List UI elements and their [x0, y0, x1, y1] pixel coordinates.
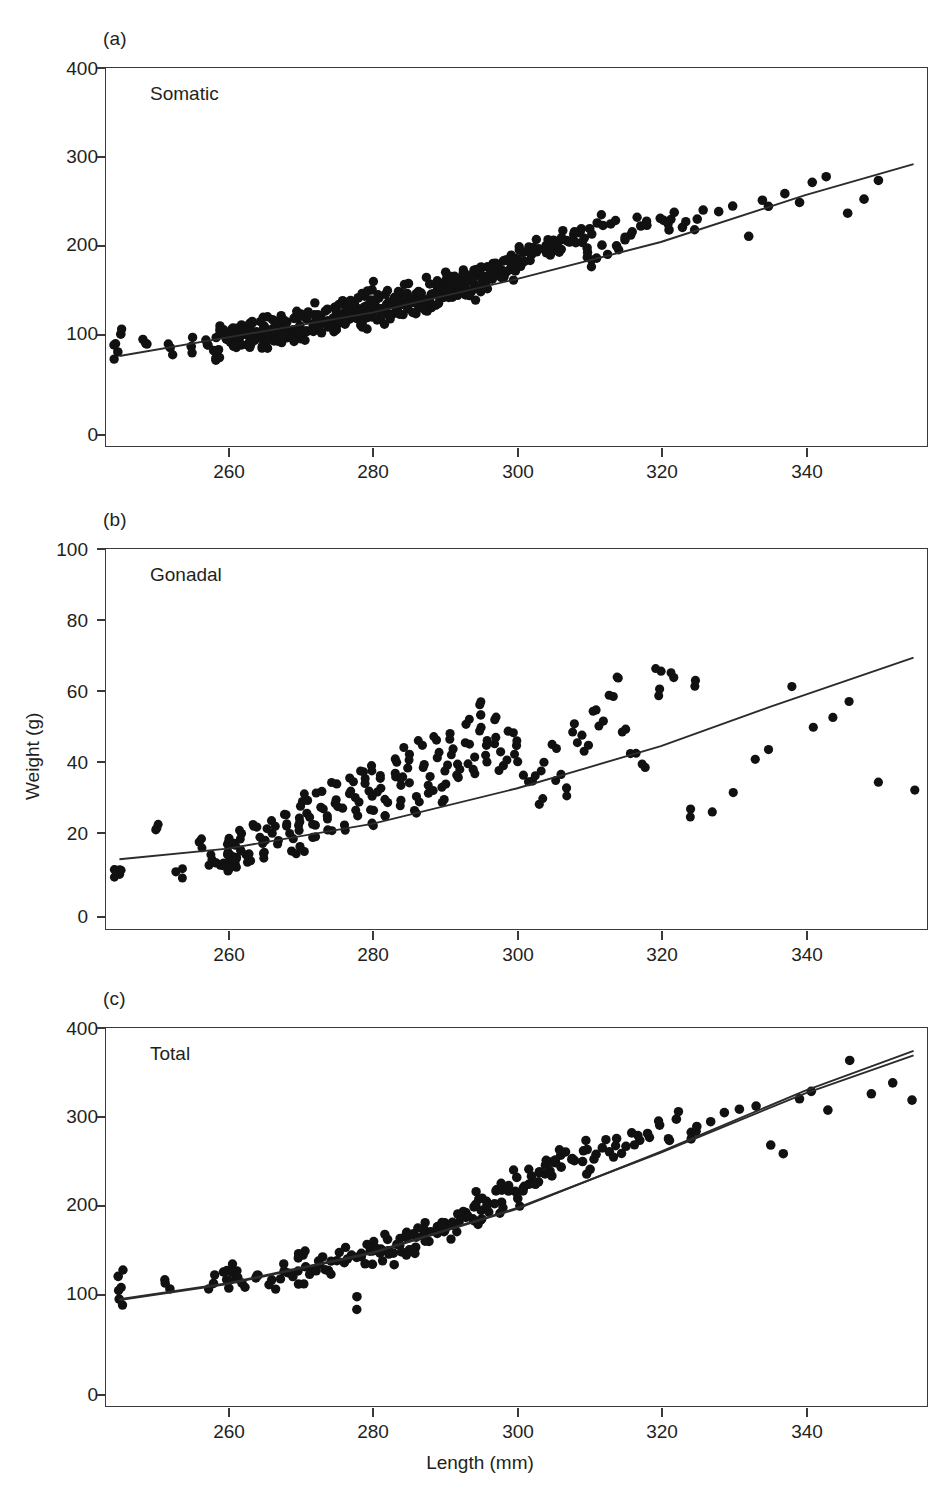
x-axis-title: Length (mm) — [400, 1452, 560, 1474]
figure-root: (a) Somatic 400 300 200 100 0 260 280 30… — [0, 0, 950, 1500]
y-axis-title: Weight (g) — [22, 713, 44, 800]
panel-c-data-layer — [0, 0, 950, 1500]
